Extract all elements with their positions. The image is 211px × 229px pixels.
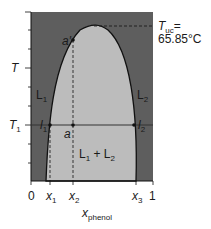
region-L1: L1 — [36, 89, 47, 104]
x-tick-0: 0 — [28, 190, 35, 202]
point-a-prime — [71, 38, 75, 42]
point-l2 — [132, 123, 136, 127]
x-tick-x2: x2 — [69, 190, 79, 205]
x-tick-x3: x3 — [132, 190, 142, 205]
y-label-T1: T1 — [9, 119, 21, 134]
region-L2: L2 — [137, 89, 148, 104]
x-tick-1: 1 — [149, 190, 156, 202]
y-label-T: T — [11, 62, 18, 74]
label-l1: l1 — [40, 119, 47, 134]
x-axis-label: xphenol — [82, 207, 112, 222]
y-ticks — [25, 12, 31, 163]
region-L1-plus-L2: L1 + L2 — [79, 148, 115, 163]
point-a — [71, 123, 75, 127]
label-l2: l2 — [138, 119, 145, 134]
point-l1 — [48, 123, 52, 127]
tuc-value: 65.85°C — [158, 33, 202, 45]
label-a-prime: a′ — [62, 35, 71, 47]
label-a: a — [64, 128, 71, 140]
x-tick-x1: x1 — [46, 190, 56, 205]
